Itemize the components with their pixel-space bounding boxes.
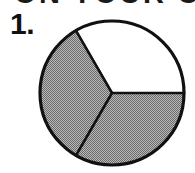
pie-chart-svg (36, 16, 192, 172)
heading-strip: ON YOUR OWN (0, 0, 195, 7)
item-number: 1. (10, 9, 34, 39)
heading-text: ON YOUR OWN (14, 0, 195, 7)
pie-chart (36, 16, 192, 172)
worksheet-figure: ON YOUR OWN 1. (0, 0, 195, 173)
